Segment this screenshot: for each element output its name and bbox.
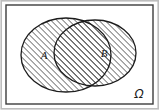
venn-diagram-canvas: A B Ω xyxy=(0,0,160,111)
set-b-label: B xyxy=(101,47,108,59)
venn-diagram-figure: A B Ω xyxy=(0,0,160,111)
universe-label: Ω xyxy=(133,87,144,101)
set-a-label: A xyxy=(40,49,48,61)
